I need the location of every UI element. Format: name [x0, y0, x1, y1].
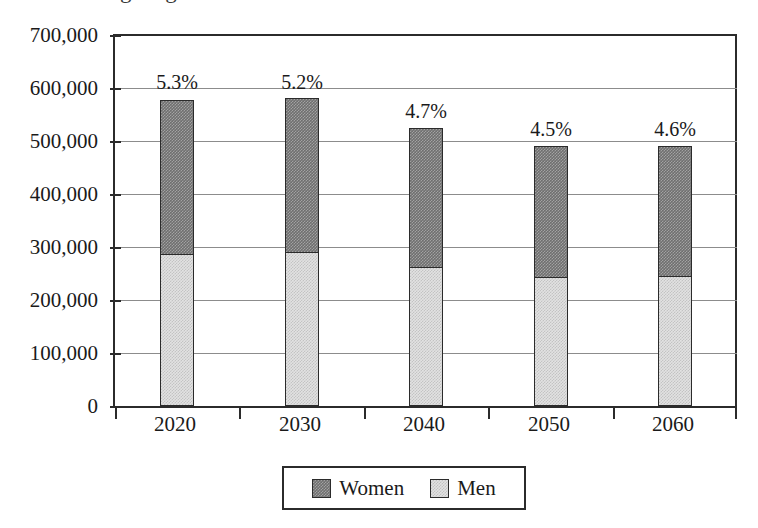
bar-2050[interactable] — [534, 146, 568, 406]
x-axis-label-2020: 2020 — [154, 414, 196, 435]
y-axis-label-0: 0 — [88, 396, 99, 417]
bar-segment-women-2060[interactable] — [658, 146, 692, 277]
gridline-600000 — [115, 88, 737, 89]
y-tick-400000 — [110, 194, 121, 196]
x-axis-labels: 2020 2030 2040 2050 2060 — [113, 414, 737, 444]
legend-label-women: Women — [339, 478, 404, 499]
bar-2040[interactable] — [409, 128, 443, 406]
bar-segment-women-2050[interactable] — [534, 146, 568, 278]
stacked-bar-chart: 700,000 600,000 500,000 400,000 300,000 … — [0, 0, 758, 528]
bar-segment-women-2020[interactable] — [160, 100, 194, 255]
pct-label-2040: 4.7% — [405, 101, 447, 121]
y-axis-label-600000: 600,000 — [30, 78, 98, 99]
y-axis-label-500000: 500,000 — [30, 131, 98, 152]
bar-segment-men-2030[interactable] — [285, 252, 319, 406]
x-axis-label-2060: 2060 — [652, 414, 694, 435]
x-axis-label-2030: 2030 — [279, 414, 321, 435]
legend-swatch-women-icon — [312, 479, 331, 498]
y-tick-700000 — [110, 35, 121, 37]
legend-item-women[interactable]: Women — [312, 478, 404, 499]
y-tick-500000 — [110, 141, 121, 143]
bar-segment-women-2040[interactable] — [409, 128, 443, 268]
y-tick-600000 — [110, 88, 121, 90]
pct-label-2050: 4.5% — [530, 119, 572, 139]
y-tick-300000 — [110, 247, 121, 249]
y-tick-100000 — [110, 353, 121, 355]
y-axis-label-700000: 700,000 — [30, 25, 98, 46]
y-axis-label-300000: 300,000 — [30, 237, 98, 258]
y-axis-labels: 700,000 600,000 500,000 400,000 300,000 … — [0, 0, 108, 528]
legend-item-men[interactable]: Men — [430, 478, 496, 499]
legend-swatch-men-icon — [430, 479, 449, 498]
legend-label-men: Men — [457, 478, 496, 499]
pct-label-2030: 5.2% — [281, 72, 323, 92]
plot-area: 5.3% 5.2% 4.7% 4.5% 4.6% — [113, 35, 737, 408]
y-axis-label-100000: 100,000 — [30, 343, 98, 364]
y-tick-200000 — [110, 300, 121, 302]
bar-segment-men-2040[interactable] — [409, 267, 443, 406]
chart-legend: Women Men — [282, 466, 526, 510]
pct-label-2020: 5.3% — [156, 72, 198, 92]
y-axis-label-400000: 400,000 — [30, 184, 98, 205]
y-axis-label-200000: 200,000 — [30, 290, 98, 311]
bar-2020[interactable] — [160, 100, 194, 406]
bar-2060[interactable] — [658, 146, 692, 406]
pct-label-2060: 4.6% — [654, 119, 696, 139]
bar-segment-men-2020[interactable] — [160, 254, 194, 406]
bar-segment-men-2060[interactable] — [658, 276, 692, 406]
bar-segment-men-2050[interactable] — [534, 277, 568, 406]
x-axis-label-2040: 2040 — [403, 414, 445, 435]
bar-2030[interactable] — [285, 98, 319, 406]
bar-segment-women-2030[interactable] — [285, 98, 319, 253]
x-axis-label-2050: 2050 — [528, 414, 570, 435]
